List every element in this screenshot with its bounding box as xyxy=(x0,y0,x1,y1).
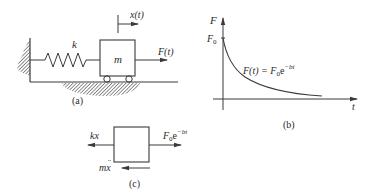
caption-b: (b) xyxy=(283,119,295,131)
panel-a: k m x(t) F(t) (a) xyxy=(17,9,178,107)
wheel-left xyxy=(104,76,110,82)
figure-canvas: k m x(t) F(t) (a) F t F0 F(t) = F0e−bt xyxy=(0,0,373,194)
wheel-right xyxy=(126,76,132,82)
applied-force-label-c: F0e−bt xyxy=(162,128,188,143)
y-axis-label: F xyxy=(209,14,217,26)
inertia-ddot: ¨ xyxy=(108,157,111,167)
spring-force-label: kx xyxy=(90,130,99,141)
curve-equation: F(t) = F0e−bt xyxy=(242,63,296,78)
caption-a: (a) xyxy=(72,95,83,107)
y-tick-label: F0 xyxy=(206,33,217,46)
free-body-block xyxy=(114,127,149,162)
spring xyxy=(30,53,100,67)
panel-b: F t F0 F(t) = F0e−bt (b) xyxy=(206,14,357,131)
displacement-label: x(t) xyxy=(129,9,145,21)
spring-label: k xyxy=(72,38,78,50)
wall-hatching xyxy=(17,40,30,76)
x-axis-label: t xyxy=(352,101,355,112)
mass-label: m xyxy=(114,53,122,65)
caption-c: (c) xyxy=(129,178,140,190)
panel-c: kx F0e−bt mx ¨ (c) xyxy=(88,127,188,190)
applied-force-label: F(t) xyxy=(157,46,174,58)
